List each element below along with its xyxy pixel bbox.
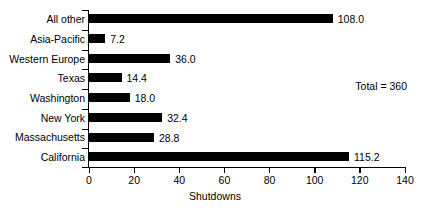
bar-texas bbox=[89, 73, 122, 82]
bar-new-york bbox=[89, 113, 162, 122]
x-axis-tick-label: 0 bbox=[69, 174, 109, 186]
bar-value-label: 32.4 bbox=[167, 113, 187, 124]
x-axis-line bbox=[88, 167, 406, 168]
bar-value-label: 36.0 bbox=[175, 54, 195, 65]
x-axis-tick-label: 80 bbox=[250, 174, 290, 186]
bar-massachusetts bbox=[89, 133, 154, 142]
x-axis-tick-label: 60 bbox=[204, 174, 244, 186]
bar-value-label: 115.2 bbox=[354, 152, 380, 163]
category-label: New York bbox=[41, 113, 85, 124]
y-axis-tick bbox=[82, 129, 88, 130]
y-axis-tick bbox=[82, 30, 88, 31]
y-axis-tick bbox=[82, 50, 88, 51]
x-axis-title: Shutdowns bbox=[0, 190, 430, 202]
bar-value-label: 108.0 bbox=[338, 14, 364, 25]
bar-washington bbox=[89, 93, 130, 102]
y-axis-tick bbox=[82, 148, 88, 149]
bar-western-europe bbox=[89, 54, 170, 63]
bar-asia-pacific bbox=[89, 34, 105, 43]
x-axis-tick bbox=[405, 168, 406, 173]
x-axis-tick bbox=[224, 168, 225, 173]
x-axis-tick-label: 40 bbox=[159, 174, 199, 186]
bar-california bbox=[89, 152, 349, 161]
category-label: Texas bbox=[58, 73, 85, 84]
bar-chart: All other Asia-Pacific Western Europe Te… bbox=[0, 0, 430, 214]
bar-all-other bbox=[89, 14, 333, 23]
y-axis-tick bbox=[82, 89, 88, 90]
category-label: Washington bbox=[30, 93, 85, 104]
category-label: Massachusetts bbox=[15, 132, 85, 143]
category-label: California bbox=[41, 152, 85, 163]
x-axis-tick bbox=[359, 168, 360, 173]
category-label: Western Europe bbox=[9, 54, 85, 65]
x-axis-tick bbox=[89, 168, 90, 173]
x-axis-tick bbox=[314, 168, 315, 173]
x-axis-tick bbox=[179, 168, 180, 173]
bar-value-label: 14.4 bbox=[127, 73, 147, 84]
x-axis-tick-label: 20 bbox=[114, 174, 154, 186]
y-axis-tick bbox=[82, 109, 88, 110]
x-axis-tick-label: 120 bbox=[340, 174, 380, 186]
category-label: Asia-Pacific bbox=[30, 34, 85, 45]
y-axis-tick bbox=[82, 10, 88, 11]
bar-value-label: 28.8 bbox=[159, 133, 179, 144]
x-axis-tick bbox=[134, 168, 135, 173]
bar-value-label: 7.2 bbox=[110, 34, 125, 45]
bar-value-label: 18.0 bbox=[135, 93, 155, 104]
total-annotation: Total = 360 bbox=[355, 80, 407, 92]
x-axis-tick-label: 140 bbox=[385, 174, 425, 186]
x-axis-tick-label: 100 bbox=[295, 174, 335, 186]
y-axis-tick bbox=[82, 69, 88, 70]
x-axis-tick bbox=[269, 168, 270, 173]
category-label: All other bbox=[46, 14, 85, 25]
